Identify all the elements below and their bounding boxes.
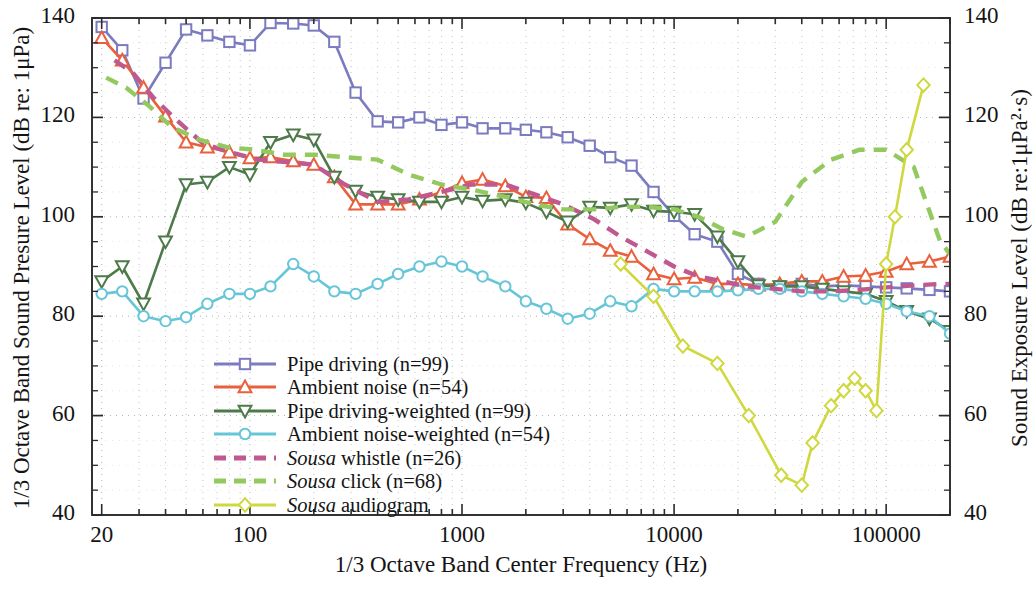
data-marker: [917, 78, 929, 91]
data-marker: [924, 311, 934, 321]
legend-label: Sousa click (n=68): [287, 471, 442, 491]
legend-label-rest: click (n=68): [336, 470, 442, 492]
data-marker: [414, 261, 424, 271]
legend-item[interactable]: Sousa whistle (n=26): [212, 446, 632, 470]
data-marker: [414, 112, 424, 122]
data-marker: [605, 152, 615, 162]
legend-key: [212, 377, 278, 397]
legend-item[interactable]: Ambient noise (n=54): [212, 376, 632, 400]
data-marker: [500, 123, 510, 133]
legend-label-genus: Sousa: [287, 494, 336, 516]
data-marker: [626, 160, 636, 170]
data-marker: [160, 58, 170, 68]
data-marker: [329, 286, 339, 296]
data-marker: [541, 304, 551, 314]
series-5: [115, 60, 950, 291]
data-marker: [393, 269, 403, 279]
legend-item[interactable]: Sousa audiogram: [212, 493, 632, 517]
data-marker: [307, 135, 320, 147]
data-marker: [202, 30, 212, 40]
data-marker: [457, 117, 467, 127]
series-4: [97, 256, 956, 338]
data-marker: [265, 18, 275, 28]
data-marker: [712, 286, 722, 296]
data-marker: [239, 498, 251, 511]
data-marker: [806, 436, 818, 449]
data-marker: [901, 143, 913, 156]
data-marker: [889, 210, 901, 223]
data-marker: [500, 281, 510, 291]
data-marker: [457, 261, 467, 271]
data-marker: [240, 359, 250, 369]
legend-item[interactable]: Pipe driving (n=99): [212, 352, 632, 376]
data-marker: [329, 37, 339, 47]
legend-item[interactable]: Ambient noise-weighted (n=54): [212, 423, 632, 447]
data-marker: [648, 187, 658, 197]
data-marker: [689, 286, 699, 296]
data-marker: [669, 286, 679, 296]
data-marker: [181, 24, 191, 34]
data-marker: [689, 229, 699, 239]
data-marker: [436, 120, 446, 130]
data-marker: [288, 18, 298, 28]
data-marker: [309, 271, 319, 281]
data-marker: [288, 259, 298, 269]
data-marker: [372, 279, 382, 289]
data-marker: [521, 296, 531, 306]
data-marker: [350, 87, 360, 97]
data-marker: [137, 299, 150, 311]
data-marker: [372, 116, 382, 126]
data-marker: [138, 311, 148, 321]
legend-key: [212, 495, 278, 515]
data-marker: [240, 429, 250, 439]
data-marker: [584, 141, 594, 151]
data-marker: [244, 169, 257, 181]
legend-label-rest: whistle (n=26): [336, 447, 461, 469]
data-marker: [350, 289, 360, 299]
data-marker: [584, 309, 594, 319]
legend-key: [212, 424, 278, 444]
data-marker: [160, 316, 170, 326]
series-line: [115, 60, 950, 291]
legend-label: Pipe driving (n=99): [287, 354, 449, 374]
legend-label: Sousa audiogram: [287, 495, 429, 515]
data-marker: [181, 312, 191, 322]
data-marker: [626, 301, 636, 311]
legend-label-genus: Sousa: [287, 447, 336, 469]
data-marker: [202, 299, 212, 309]
data-marker: [159, 236, 172, 248]
data-marker: [902, 306, 912, 316]
data-marker: [265, 281, 275, 291]
data-marker: [677, 339, 689, 352]
legend-label: Sousa whistle (n=26): [287, 448, 461, 468]
legend-label-genus: Sousa: [287, 470, 336, 492]
legend-item[interactable]: Sousa click (n=68): [212, 470, 632, 494]
legend-key: [212, 354, 278, 374]
data-marker: [605, 296, 615, 306]
data-marker: [95, 276, 108, 288]
legend-key: [212, 401, 278, 421]
data-marker: [711, 357, 723, 370]
data-marker: [860, 294, 870, 304]
data-marker: [224, 37, 234, 47]
legend-item[interactable]: Pipe driving-weighted (n=99): [212, 399, 632, 423]
data-marker: [436, 256, 446, 266]
legend-key: [212, 471, 278, 491]
data-marker: [775, 469, 787, 482]
data-marker: [245, 40, 255, 50]
legend-label: Pipe driving-weighted (n=99): [287, 401, 531, 421]
legend-label: Ambient noise-weighted (n=54): [287, 424, 550, 444]
data-marker: [521, 125, 531, 135]
data-marker: [477, 271, 487, 281]
data-marker: [477, 123, 487, 133]
data-marker: [393, 117, 403, 127]
legend-label-rest: audiogram: [336, 494, 429, 516]
data-marker: [583, 233, 596, 245]
data-marker: [541, 127, 551, 137]
data-marker: [604, 244, 617, 256]
data-marker: [97, 289, 107, 299]
data-marker: [117, 286, 127, 296]
chart-legend: Pipe driving (n=99)Ambient noise (n=54)P…: [212, 352, 632, 517]
data-marker: [562, 313, 572, 323]
